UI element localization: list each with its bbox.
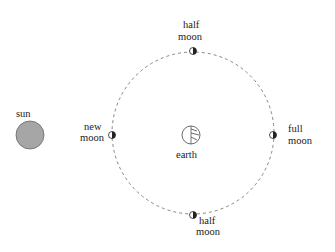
diagram-canvas: sun earth half moon new moon full moon h…	[0, 0, 335, 252]
earth: earth	[176, 126, 200, 160]
moon-bottom-half: half moon	[190, 212, 221, 238]
moon-right-label-2: moon	[288, 135, 313, 146]
moon-right-full: full moon	[270, 123, 313, 146]
moon-top-label-1: half	[183, 19, 200, 30]
moon-top-label-2: moon	[178, 31, 203, 42]
moon-left-label-1: new	[84, 121, 102, 132]
moon-left-label-2: moon	[80, 132, 105, 143]
sun-icon	[16, 121, 44, 149]
moon-top-half: half moon	[178, 19, 203, 55]
moon-bottom-label-2: moon	[196, 226, 221, 237]
moon-bottom-label-1: half	[199, 215, 216, 226]
moon-right-label-1: full	[288, 123, 303, 134]
moon-phase-diagram: sun earth half moon new moon full moon h…	[0, 0, 335, 252]
sun-label: sun	[16, 108, 31, 119]
earth-label: earth	[176, 149, 198, 160]
moon-left-new: new moon	[80, 121, 116, 143]
sun: sun	[16, 108, 44, 149]
